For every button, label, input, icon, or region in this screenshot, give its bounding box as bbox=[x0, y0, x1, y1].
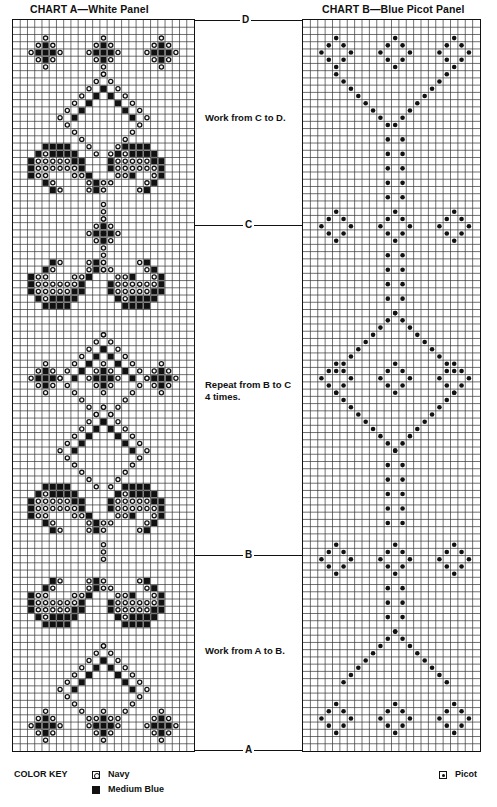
instruction-repeat-line1: Repeat from B to C bbox=[205, 379, 291, 391]
color-key-medium-blue-label: Medium Blue bbox=[108, 784, 164, 794]
marker-b: B bbox=[243, 550, 254, 560]
color-key-navy: Navy bbox=[92, 769, 130, 779]
color-key-picot: Picot bbox=[439, 769, 477, 779]
marker-d: D bbox=[240, 15, 251, 25]
chart-b-grid bbox=[302, 19, 481, 752]
color-key-navy-label: Navy bbox=[108, 769, 130, 779]
color-key-medium-blue: Medium Blue bbox=[92, 784, 164, 794]
instruction-c-to-d: Work from C to D. bbox=[205, 112, 286, 124]
navy-ring-icon bbox=[92, 771, 100, 779]
filled-square-icon bbox=[92, 786, 100, 794]
chart-b-title: CHART B—Blue Picot Panel bbox=[322, 3, 464, 15]
marker-c: C bbox=[243, 220, 254, 230]
chart-a-title: CHART A—White Panel bbox=[30, 3, 149, 15]
color-key-title: COLOR KEY bbox=[14, 769, 68, 779]
instruction-a-to-b: Work from A to B. bbox=[205, 645, 285, 657]
color-key-picot-label: Picot bbox=[455, 769, 477, 779]
marker-a: A bbox=[243, 745, 254, 755]
instruction-repeat: Repeat from B to C 4 times. bbox=[205, 379, 291, 403]
instruction-repeat-line2: 4 times. bbox=[205, 391, 291, 403]
chart-a-grid bbox=[12, 19, 195, 752]
picot-dot-icon bbox=[439, 771, 447, 779]
